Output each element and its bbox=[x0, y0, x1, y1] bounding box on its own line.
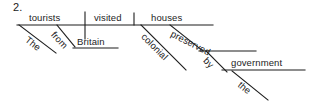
word-subject-tourists: tourists bbox=[29, 12, 60, 23]
word-prepositional-object-britain: Britain bbox=[77, 36, 105, 47]
word-object-houses: houses bbox=[151, 12, 182, 23]
word-agent-government: government bbox=[231, 57, 282, 68]
word-verb-visited: visited bbox=[94, 12, 122, 23]
sentence-diagram-page: 2. tourists visited houses Britain gover… bbox=[0, 0, 309, 107]
